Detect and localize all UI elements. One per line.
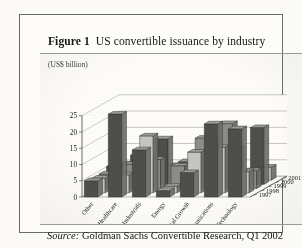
svg-text:5: 5: [73, 177, 77, 185]
svg-text:10: 10: [70, 161, 78, 169]
svg-text:Healthcare: Healthcare: [96, 200, 119, 224]
svg-text:Other: Other: [80, 200, 95, 216]
svg-text:15: 15: [70, 145, 78, 153]
svg-text:20: 20: [70, 129, 78, 137]
svg-text:Industrials: Industrials: [120, 200, 142, 224]
svg-text:25: 25: [70, 112, 78, 120]
three-d-bar-chart: 0510152025OtherHealthcareIndustrialsEner…: [40, 54, 302, 224]
figure-frame: Figure 1US convertible issuance by indus…: [19, 14, 283, 233]
figure-caption-text: US convertible issuance by industry: [96, 35, 266, 47]
figure-caption: Figure 1US convertible issuance by indus…: [48, 35, 298, 51]
svg-text:0: 0: [73, 194, 77, 202]
source-label: Source:: [47, 230, 79, 241]
svg-text:1997: 1997: [259, 191, 273, 198]
svg-text:Energy: Energy: [149, 200, 166, 219]
source-text: Goldman Sachs Convertible Research, Q1 2…: [82, 230, 283, 241]
figure-page: Figure 1US convertible issuance by indus…: [0, 0, 302, 248]
figure-source: Source: Goldman Sachs Convertible Resear…: [47, 230, 283, 241]
figure-number: Figure 1: [48, 35, 90, 47]
source-divider: [40, 224, 302, 225]
svg-text:Technology: Technology: [214, 200, 239, 224]
chart-plot-area: (US$ billion) 0510152025OtherHealthcareI…: [40, 54, 302, 224]
